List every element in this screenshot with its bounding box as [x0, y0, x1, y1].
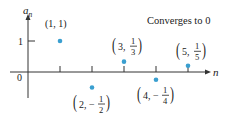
point-label: (2, −12): [73, 92, 110, 115]
svg-text:4: 4: [163, 96, 168, 106]
svg-text:(: (: [176, 39, 180, 61]
y-tick-label: 1: [18, 36, 23, 47]
svg-text:4, −: 4, −: [143, 90, 159, 101]
x-axis-arrow-icon: [205, 70, 211, 75]
svg-text:2: 2: [99, 105, 103, 115]
svg-text:): ): [106, 92, 110, 114]
origin-label: 0: [17, 72, 22, 83]
data-point: [58, 39, 63, 44]
svg-text:): ): [138, 34, 142, 56]
svg-text:2, −: 2, −: [79, 99, 95, 110]
x-ticks: [60, 66, 188, 72]
point-labels: (1, 1)(2, −12)(3,13)(4, −14)(5,15): [45, 18, 206, 115]
data-point: [154, 77, 159, 82]
svg-text:1: 1: [195, 41, 199, 51]
svg-text:3,: 3,: [118, 41, 126, 52]
data-point: [186, 64, 191, 69]
point-label: (4, −14): [137, 83, 174, 106]
point-label: (1, 1): [45, 18, 67, 30]
data-point: [90, 85, 95, 90]
x-axis-label: n: [213, 66, 219, 78]
svg-text:5,: 5,: [182, 46, 190, 57]
svg-text:(: (: [112, 34, 116, 56]
convergence-annotation: Converges to 0: [147, 15, 210, 26]
data-point: [122, 59, 127, 64]
svg-text:(1, 1): (1, 1): [45, 18, 67, 30]
svg-text:): ): [202, 39, 206, 61]
point-label: (3,13): [112, 34, 142, 57]
svg-text:(: (: [73, 92, 77, 114]
y-axis-label: an: [23, 4, 33, 19]
point-label: (5,15): [176, 39, 206, 62]
svg-text:5: 5: [195, 52, 199, 62]
svg-text:1: 1: [163, 85, 167, 95]
svg-text:): ): [170, 83, 174, 105]
svg-text:1: 1: [99, 94, 103, 104]
svg-text:(: (: [137, 83, 141, 105]
sequence-plot: (1, 1)(2, −12)(3,13)(4, −14)(5,15) an n …: [0, 0, 231, 115]
svg-text:3: 3: [131, 47, 135, 57]
svg-text:1: 1: [131, 36, 135, 46]
